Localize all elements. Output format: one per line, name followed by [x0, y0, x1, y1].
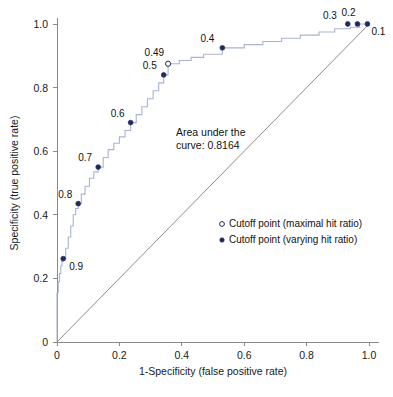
cutoff-point-label-0-4: 0.4	[200, 33, 214, 44]
cutoff-point-label-0-3: 0.3	[323, 10, 337, 21]
y-tick-label: 0.2	[33, 272, 48, 284]
cutoff-point-label-0-7: 0.7	[78, 152, 92, 163]
chance-diagonal-line	[57, 24, 369, 342]
x-tick-label: 0.2	[112, 349, 127, 361]
legend-label-varying: Cutoff point (varying hit ratio)	[229, 234, 357, 245]
legend-label-maximal: Cutoff point (maximal hit ratio)	[229, 218, 362, 229]
x-tick-label: 1.0	[362, 349, 377, 361]
cutoff-point-label-0-8: 0.8	[58, 189, 72, 200]
cutoff-point-label-0-1: 0.1	[371, 26, 385, 37]
auc-annotation-line1: Area under the	[176, 126, 246, 138]
x-tick-label: 0.8	[299, 349, 314, 361]
y-tick-label: 0	[42, 336, 48, 348]
cutoff-point-marker-0-1	[365, 22, 370, 27]
cutoff-point-marker-0-5	[161, 72, 166, 77]
cutoff-point-label-0-6: 0.6	[111, 108, 125, 119]
plot-area: 00.20.40.60.81.000.20.40.60.81.01-Specif…	[8, 7, 386, 377]
y-tick-label: 0.6	[33, 145, 48, 157]
x-tick-label: 0.6	[237, 349, 252, 361]
y-tick-label: 0.8	[33, 82, 48, 94]
cutoff-point-marker-0-4	[220, 45, 225, 50]
cutoff-point-marker-0-49	[165, 61, 170, 66]
cutoff-point-marker-0-3	[345, 22, 350, 27]
cutoff-point-marker-0-6	[128, 120, 133, 125]
auc-annotation-line2: curve: 0.8164	[176, 139, 240, 151]
x-axis-title: 1-Specificity (false positive rate)	[139, 365, 287, 377]
cutoff-point-marker-0-2	[355, 22, 360, 27]
cutoff-point-label-0-5: 0.5	[143, 60, 157, 71]
x-tick-label: 0.4	[174, 349, 189, 361]
cutoff-point-marker-0-9	[61, 256, 66, 261]
cutoff-point-label-0-49: 0.49	[145, 47, 165, 58]
roc-chart-figure: 00.20.40.60.81.000.20.40.60.81.01-Specif…	[0, 0, 393, 397]
y-tick-label: 1.0	[33, 18, 48, 30]
y-tick-label: 0.4	[33, 209, 48, 221]
y-axis-title: Specificity (true positive rate)	[8, 116, 20, 251]
cutoff-point-label-0-9: 0.9	[69, 261, 83, 272]
cutoff-point-marker-0-8	[76, 201, 81, 206]
cutoff-point-marker-0-7	[96, 165, 101, 170]
cutoff-point-label-0-2: 0.2	[342, 7, 356, 18]
legend-marker-varying	[220, 238, 224, 242]
roc-chart-svg: 00.20.40.60.81.000.20.40.60.81.01-Specif…	[0, 0, 393, 397]
legend-marker-maximal	[220, 222, 225, 227]
x-tick-label: 0	[54, 349, 60, 361]
